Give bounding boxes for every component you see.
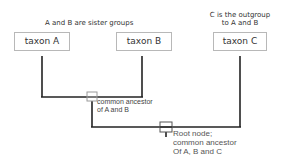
taxon-a-box[interactable]: taxon A	[14, 32, 70, 51]
outgroup-label: C is the outgroup to A and B	[205, 11, 275, 27]
ab-ancestor-label: common ancestor of A and B	[97, 98, 153, 114]
outgroup-label-line1: C is the outgroup	[205, 11, 275, 19]
sister-groups-label: A and B are sister groups	[45, 19, 133, 27]
root-node-label-line1: Root node;	[173, 129, 237, 138]
root-node-label-line3: Of A, B and C	[173, 147, 237, 156]
root-node-label: Root node; common ancestor Of A, B and C	[173, 129, 237, 156]
ab-ancestor-label-line1: common ancestor	[97, 98, 153, 106]
outgroup-label-line2: to A and B	[205, 19, 275, 27]
ab-ancestor-node-marker[interactable]	[87, 92, 97, 101]
taxon-c-box[interactable]: taxon C	[213, 32, 267, 51]
taxon-b-box[interactable]: taxon B	[116, 32, 172, 51]
root-node-label-line2: common ancestor	[173, 138, 237, 147]
ab-ancestor-label-line2: of A and B	[97, 106, 153, 114]
